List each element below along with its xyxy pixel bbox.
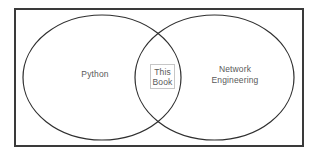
venn-label-network-engineering: Network Engineering bbox=[196, 64, 274, 85]
venn-diagram-figure: Python Network Engineering This Book bbox=[0, 0, 317, 157]
venn-label-python: Python bbox=[63, 69, 127, 80]
venn-intersection-label-line-2: Book bbox=[151, 77, 174, 87]
venn-intersection-label-line-1: This bbox=[151, 67, 174, 77]
venn-intersection-label-box: This Book bbox=[150, 64, 175, 89]
venn-label-layer: Python Network Engineering This Book bbox=[0, 0, 317, 157]
